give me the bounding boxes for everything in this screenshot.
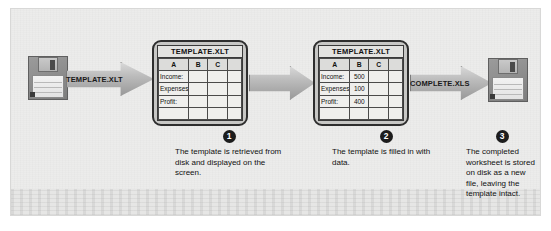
table-header-row: A B C <box>159 59 242 71</box>
right-arrow-icon <box>249 66 315 100</box>
cell-c3 <box>369 95 388 107</box>
floppy-shutter-slot <box>50 60 55 70</box>
floppy-shutter-slot <box>510 62 515 72</box>
floppy-shutter <box>498 59 518 74</box>
step-callout-1: 1 The template is retrieved from disk an… <box>175 130 283 179</box>
step-number-badge-3: 3 <box>496 130 509 143</box>
spreadsheet-screen-2-inner: TEMPLATE.XLT A B C Income: 500 Expenses:… <box>318 45 404 121</box>
row-label-expenses: Expenses: <box>159 83 189 95</box>
row-label-profit: Profit: <box>320 95 350 107</box>
spreadsheet-screen-1: TEMPLATE.XLT A B C Income: Expenses: <box>152 40 248 126</box>
table-row <box>320 107 403 119</box>
cell-b1: 500 <box>350 71 369 83</box>
table-row: Expenses: <box>159 83 242 95</box>
panel-bottom-band <box>11 189 540 215</box>
row-label-income: Income: <box>159 71 189 83</box>
floppy-write-protect-notch <box>30 92 35 97</box>
cell-c4 <box>208 107 227 119</box>
floppy-label-line <box>494 89 522 90</box>
table-row <box>159 107 242 119</box>
spreadsheet-1-title: TEMPLATE.XLT <box>158 46 242 58</box>
floppy-write-protect-notch <box>490 94 495 99</box>
row-label-empty <box>320 107 350 119</box>
spreadsheet-screen-1-inner: TEMPLATE.XLT A B C Income: Expenses: <box>157 45 243 121</box>
cell-c3 <box>208 95 227 107</box>
spreadsheet-2-title: TEMPLATE.XLT <box>319 46 403 58</box>
cell-d2 <box>227 83 241 95</box>
cell-b4 <box>350 107 369 119</box>
step-callout-3: 3 The completed worksheet is stored on d… <box>466 130 538 200</box>
cell-b2 <box>189 83 208 95</box>
cell-b4 <box>189 107 208 119</box>
arrow-save-complete: COMPLETE.XLS <box>410 66 492 100</box>
cell-c2 <box>208 83 227 95</box>
cell-b1 <box>189 71 208 83</box>
column-header-a: A <box>320 59 350 71</box>
step-number-badge-2: 2 <box>380 130 393 143</box>
floppy-label-line <box>34 82 62 83</box>
row-label-income: Income: <box>320 71 350 83</box>
target-floppy-disk <box>488 58 528 102</box>
row-label-profit: Profit: <box>159 95 189 107</box>
cell-d1 <box>388 71 402 83</box>
floppy-label-line <box>34 92 62 93</box>
table-row: Income: <box>159 71 242 83</box>
floppy-label-line <box>494 84 522 85</box>
cell-d2 <box>388 83 402 95</box>
column-header-d <box>388 59 402 71</box>
cell-c4 <box>369 107 388 119</box>
arrow-fill-data <box>249 66 315 100</box>
floppy-label-area <box>492 77 524 100</box>
column-header-c: C <box>208 59 227 71</box>
diagram-figure: TEMPLATE.XLT TEMPLATE.XLT A B C Income: <box>0 0 551 231</box>
cell-b3 <box>189 95 208 107</box>
cell-b2: 100 <box>350 83 369 95</box>
table-header-row: A B C <box>320 59 403 71</box>
cell-d1 <box>227 71 241 83</box>
floppy-label-line <box>34 87 62 88</box>
row-label-expenses: Expenses: <box>320 83 350 95</box>
column-header-d <box>227 59 241 71</box>
arrow-label-template-xlt: TEMPLATE.XLT <box>66 75 121 84</box>
row-label-empty <box>159 107 189 119</box>
step-text-1: The template is retrieved from disk and … <box>175 147 283 179</box>
step-text-2: The template is filled in with data. <box>332 147 440 168</box>
column-header-c: C <box>369 59 388 71</box>
table-row: Profit: <box>159 95 242 107</box>
spreadsheet-1-table: A B C Income: Expenses: <box>158 58 242 120</box>
cell-d4 <box>227 107 241 119</box>
floppy-label-line <box>494 94 522 95</box>
floppy-label-area <box>32 75 64 98</box>
spreadsheet-screen-2: TEMPLATE.XLT A B C Income: 500 Expenses:… <box>313 40 409 126</box>
column-header-b: B <box>189 59 208 71</box>
cell-d4 <box>388 107 402 119</box>
column-header-a: A <box>159 59 189 71</box>
cell-c1 <box>369 71 388 83</box>
arrow-template-load: TEMPLATE.XLT <box>66 62 154 96</box>
panel-texture <box>11 9 540 215</box>
diagram-panel <box>10 8 541 216</box>
step-text-3: The completed worksheet is stored on dis… <box>466 147 538 200</box>
cell-d3 <box>227 95 241 107</box>
table-row: Profit: 400 <box>320 95 403 107</box>
cell-c2 <box>369 83 388 95</box>
table-row: Income: 500 <box>320 71 403 83</box>
cell-c1 <box>208 71 227 83</box>
step-number-badge-1: 1 <box>223 130 236 143</box>
floppy-shutter <box>38 57 58 72</box>
step-callout-2: 2 The template is filled in with data. <box>332 130 440 168</box>
source-floppy-disk <box>28 56 68 100</box>
spreadsheet-2-table: A B C Income: 500 Expenses: 100 <box>319 58 403 120</box>
cell-d3 <box>388 95 402 107</box>
cell-b3: 400 <box>350 95 369 107</box>
arrow-label-complete-xls: COMPLETE.XLS <box>410 79 461 88</box>
table-row: Expenses: 100 <box>320 83 403 95</box>
column-header-b: B <box>350 59 369 71</box>
